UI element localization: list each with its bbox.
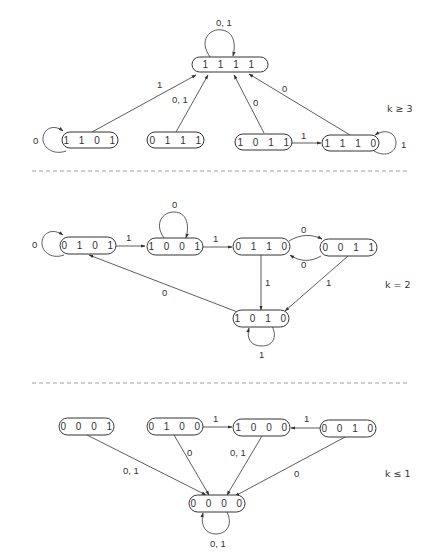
state-label-0001: 0 0 0 1 [60,421,115,432]
edge-label-1001-self: 0 [172,199,177,210]
edge-1110-to-1111 [249,74,350,135]
state-label-1011: 1 0 1 1 [237,137,292,148]
edge-1010-to-0101 [89,255,240,313]
state-node-0001: 0 0 0 1 [59,418,116,435]
edge-label-1110-1111: 0 [282,83,287,94]
edge-label-0010-0000: 0 [294,468,299,479]
edge-label-0001-0000: 0, 1 [123,465,139,476]
condition-label-k-ge-3: k ≥ 3 [387,103,413,114]
state-node-1011: 1 0 1 1 [235,134,293,150]
section-k-le-1: 1 1 0, 1 0 0, 1 0 0, 1 0 0 0 1 0 1 0 0 1 [59,413,411,549]
edge-0100-to-0000 [174,435,209,495]
state-label-0011: 0 0 1 1 [322,242,377,253]
state-label-0000: 0 0 0 0 [190,498,245,509]
state-label-0101: 0 1 0 1 [61,240,116,251]
condition-label-k-eq-2: k = 2 [385,279,411,290]
edge-label-1010-self: 1 [259,349,264,360]
edge-label-0111-1111: 0, 1 [172,94,188,105]
edge-0010-to-0000 [235,436,347,496]
state-node-0000: 0 0 0 0 [189,495,246,512]
edge-1000-to-0000 [227,436,262,495]
state-label-1000: 1 0 0 0 [235,422,290,433]
edge-1011-to-1111 [234,75,264,133]
edge-label-0100-1000: 1 [213,413,218,424]
condition-label-k-le-1: k ≤ 1 [385,468,411,479]
state-node-1010: 1 0 1 0 [233,310,290,327]
edge-label-1111-self: 0, 1 [216,17,232,28]
state-node-1101: 1 1 0 1 [62,132,119,148]
state-label-0100: 0 1 0 0 [148,421,203,432]
edge-0001-to-0000 [87,435,206,495]
edge-label-0100-0000: 0 [187,447,192,458]
state-label-0111: 0 1 1 1 [149,135,204,146]
edge-0011-to-1010 [285,256,348,311]
state-label-1010: 1 0 1 0 [234,313,289,324]
edge-label-0010-1000: 1 [304,413,309,424]
state-node-0111: 0 1 1 1 [147,132,205,148]
edge-label-1001-0110: 1 [213,233,218,244]
state-node-0101: 0 1 0 1 [60,237,117,254]
edge-1111-self-loop [205,30,234,57]
edge-1010-self-loop [248,326,274,346]
edge-label-0011-0110: 0 [301,259,306,270]
edge-label-0000-self: 0, 1 [210,538,226,549]
state-node-0011: 0 0 1 1 [320,239,378,256]
edge-label-1011-1110: 1 [301,130,306,141]
edge-label-1101-1111: 1 [157,79,162,90]
state-node-1000: 1 0 0 0 [233,419,291,436]
state-label-1111: 1 1 1 1 [202,59,257,70]
edge-label-0101-1001: 1 [126,232,131,243]
state-node-0100: 0 1 0 0 [147,418,204,435]
state-node-0010: 0 0 1 0 [320,420,377,437]
section-k-eq-2: 0 1 0 1 0 0 1 1 0 1 0 1 0 1 [32,199,411,360]
state-node-1111: 1 1 1 1 [192,57,268,72]
edge-label-1110-self: 1 [401,139,406,150]
state-label-1110: 1 1 1 0 [324,138,379,149]
state-label-1101: 1 1 0 1 [63,135,118,146]
edge-0110-to-0011 [289,235,322,241]
edge-label-1101-self: 0 [33,135,38,146]
state-label-0110: 0 1 1 0 [235,241,290,252]
state-node-1110: 1 1 1 0 [322,135,380,151]
state-node-0110: 0 1 1 0 [233,238,291,255]
edge-label-1010-0101: 0 [162,287,167,298]
state-node-1001: 1 0 0 1 [147,238,204,255]
edge-label-1011-1111: 0 [253,97,258,108]
edge-label-1000-0000: 0, 1 [230,447,246,458]
section-k-ge-3: 0, 1 1 0 0, 1 0 1 0 1 1 1 1 1 1 1 0 1 [33,17,413,154]
edge-0000-self-loop [202,512,229,534]
state-label-1001: 1 0 0 1 [148,241,203,252]
edge-label-0011-1010: 1 [326,277,331,288]
edge-label-0110-1010: 1 [265,277,270,288]
state-diagram-canvas: 0, 1 1 0 0, 1 0 1 0 1 1 1 1 1 1 1 0 1 [0,0,432,559]
edge-label-0101-self: 0 [32,239,37,250]
state-label-0010: 0 0 1 0 [321,423,376,434]
edge-1001-self-loop [159,212,187,238]
edge-label-0110-0011: 0 [301,224,306,235]
